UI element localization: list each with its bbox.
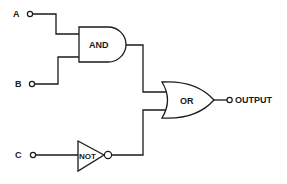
and-gate-label: AND bbox=[89, 40, 109, 50]
and-gate: AND bbox=[79, 27, 126, 62]
wire-a-to-and bbox=[33, 14, 79, 34]
wire-not-to-or bbox=[112, 110, 166, 155]
wire-and-to-or bbox=[126, 45, 166, 92]
not-gate-label: NOT bbox=[79, 152, 96, 161]
input-a-terminal-icon bbox=[27, 11, 32, 16]
input-b-label: B bbox=[15, 79, 22, 89]
output-label: OUTPUT bbox=[235, 95, 273, 105]
input-b-terminal-icon bbox=[29, 81, 34, 86]
not-gate: NOT bbox=[78, 141, 112, 171]
logic-circuit-diagram: A B AND C NOT OR OUTPUT bbox=[0, 0, 287, 184]
not-gate-bubble-icon bbox=[104, 151, 111, 158]
output: OUTPUT bbox=[214, 95, 273, 105]
input-c: C bbox=[15, 150, 78, 160]
input-a-label: A bbox=[13, 9, 20, 19]
input-b: B bbox=[15, 57, 79, 89]
wire-b-to-and bbox=[35, 57, 79, 84]
input-c-terminal-icon bbox=[30, 152, 35, 157]
output-terminal-icon bbox=[227, 97, 232, 102]
input-c-label: C bbox=[15, 150, 22, 160]
input-a: A bbox=[13, 9, 79, 34]
or-gate: OR bbox=[162, 82, 214, 118]
or-gate-label: OR bbox=[180, 96, 194, 106]
